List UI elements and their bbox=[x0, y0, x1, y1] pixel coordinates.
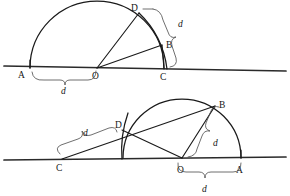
geometry-figure: A O C B D d d bbox=[0, 0, 290, 196]
upper-label-d: D bbox=[131, 3, 138, 13]
lower-segment-do bbox=[122, 130, 182, 158]
upper-construction: A O C B D d d bbox=[4, 1, 286, 96]
upper-baseline bbox=[4, 66, 286, 71]
lower-brace-oa bbox=[178, 163, 241, 178]
upper-segment-od bbox=[97, 13, 139, 68]
upper-brace-ao bbox=[32, 71, 96, 85]
upper-segment-ob bbox=[97, 45, 162, 68]
lower-dist-label-ob: d bbox=[213, 138, 218, 148]
figure-stage: A O C B D d d bbox=[0, 0, 290, 196]
upper-label-a: A bbox=[18, 70, 25, 80]
lower-dist-label-cd: d bbox=[83, 128, 88, 138]
upper-dist-label-dc: d bbox=[178, 19, 183, 29]
lower-label-b: B bbox=[219, 100, 225, 110]
lower-baseline bbox=[4, 157, 286, 160]
upper-dist-label-ao: d bbox=[61, 86, 66, 96]
lower-label-c: C bbox=[56, 163, 62, 173]
lower-label-d: D bbox=[115, 120, 122, 130]
lower-label-a: A bbox=[236, 165, 243, 175]
lower-dist-label-oa: d bbox=[202, 184, 207, 194]
upper-semicircle bbox=[30, 1, 164, 68]
upper-label-c: C bbox=[160, 72, 166, 82]
lower-construction: C O A D B d d d bbox=[4, 99, 286, 194]
